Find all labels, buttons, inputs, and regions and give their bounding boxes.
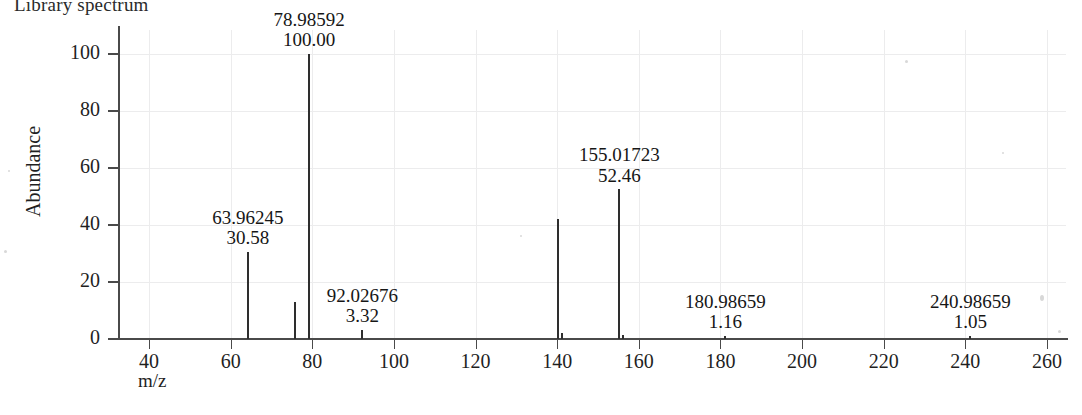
- x-tick-mark: [965, 340, 966, 349]
- x-tick-mark: [802, 340, 803, 349]
- peak-abundance-value: 3.32: [272, 306, 452, 326]
- spectrum-peak: [618, 189, 620, 339]
- y-tick-label: 40: [36, 212, 100, 235]
- spectrum-peak: [724, 336, 726, 339]
- peak-label: 78.98592100.00: [219, 10, 399, 50]
- y-tick-mark: [108, 224, 120, 226]
- scan-speck: [8, 170, 10, 172]
- x-tick-label: 60: [201, 350, 261, 373]
- peak-label: 180.986591.16: [635, 292, 815, 332]
- spectrum-peak: [247, 252, 249, 339]
- peak-abundance-value: 1.05: [880, 312, 1060, 332]
- peak-mz-value: 180.98659: [635, 292, 815, 312]
- y-axis-spine: [118, 26, 120, 340]
- x-tick-mark: [476, 340, 477, 349]
- x-tick-mark: [312, 340, 313, 349]
- scan-speck: [1058, 330, 1061, 333]
- figure-title: Library spectrum: [14, 0, 149, 16]
- x-tick-mark: [231, 340, 232, 349]
- scan-speck: [905, 60, 908, 63]
- x-tick-mark: [1047, 340, 1048, 349]
- x-tick-label: 200: [772, 350, 832, 373]
- gridline-horizontal: [118, 282, 1066, 283]
- spectrum-peak: [561, 333, 563, 339]
- x-tick-label: 80: [282, 350, 342, 373]
- x-tick-mark: [394, 340, 395, 349]
- scan-speck: [520, 235, 522, 237]
- gridline-vertical: [231, 30, 232, 339]
- x-axis-spine: [118, 338, 1068, 340]
- y-tick-label: 100: [36, 41, 100, 64]
- x-tick-mark: [557, 340, 558, 349]
- peak-mz-value: 240.98659: [880, 292, 1060, 312]
- spectrum-peak: [622, 335, 624, 339]
- gridline-horizontal: [118, 111, 1066, 112]
- gridline-vertical: [476, 30, 477, 339]
- x-tick-mark: [639, 340, 640, 349]
- x-tick-mark: [720, 340, 721, 349]
- y-tick-mark: [108, 53, 120, 55]
- peak-mz-value: 63.96245: [158, 208, 338, 228]
- peak-mz-value: 78.98592: [219, 10, 399, 30]
- peak-label: 63.9624530.58: [158, 208, 338, 248]
- peak-abundance-value: 52.46: [529, 166, 709, 186]
- y-tick-mark: [108, 281, 120, 283]
- y-tick-mark: [108, 167, 120, 169]
- spectrum-peak: [969, 336, 971, 339]
- peak-mz-value: 92.02676: [272, 286, 452, 306]
- x-tick-label: 40: [119, 350, 179, 373]
- peak-label: 155.0172352.46: [529, 145, 709, 185]
- peak-label: 240.986591.05: [880, 292, 1060, 332]
- y-tick-label: 20: [36, 269, 100, 292]
- y-tick-label: 80: [36, 98, 100, 121]
- x-tick-label: 100: [364, 350, 424, 373]
- peak-abundance-value: 1.16: [635, 312, 815, 332]
- peak-label: 92.026763.32: [272, 286, 452, 326]
- x-tick-label: 180: [690, 350, 750, 373]
- scan-speck: [4, 250, 7, 253]
- y-tick-mark: [108, 338, 120, 340]
- gridline-vertical: [149, 30, 150, 339]
- mass-spectrum-figure: Library spectrum Abundance m/z 020406080…: [0, 0, 1082, 415]
- x-tick-mark: [149, 340, 150, 349]
- scan-speck: [1040, 295, 1044, 301]
- x-tick-label: 260: [1017, 350, 1077, 373]
- x-axis-title: m/z: [138, 370, 167, 392]
- y-tick-mark: [108, 110, 120, 112]
- y-tick-label: 60: [36, 155, 100, 178]
- y-tick-label: 0: [36, 326, 100, 349]
- x-tick-label: 240: [935, 350, 995, 373]
- peak-abundance-value: 30.58: [158, 228, 338, 248]
- x-tick-label: 220: [854, 350, 914, 373]
- scan-speck: [1002, 152, 1004, 154]
- spectrum-peak: [557, 219, 559, 339]
- spectrum-peak: [361, 330, 363, 339]
- peak-mz-value: 155.01723: [529, 145, 709, 165]
- x-tick-label: 160: [609, 350, 669, 373]
- x-tick-mark: [884, 340, 885, 349]
- peak-abundance-value: 100.00: [219, 30, 399, 50]
- x-tick-label: 120: [446, 350, 506, 373]
- gridline-horizontal: [118, 54, 1066, 55]
- x-tick-label: 140: [527, 350, 587, 373]
